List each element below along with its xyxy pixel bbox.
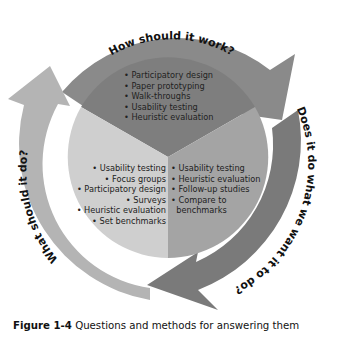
method-item: • Usability testing: [171, 163, 260, 174]
figure-label: Figure 1-4: [13, 320, 72, 331]
method-item: • Follow-up studies: [171, 184, 260, 195]
cycle-diagram: How should it work? Does it do what we w…: [0, 0, 345, 310]
method-item: • Heuristic evaluation: [171, 174, 260, 185]
method-item: • Focus groups: [76, 174, 166, 185]
figure-caption: Figure 1-4 Questions and methods for ans…: [13, 320, 299, 331]
method-item: • Usability testing: [124, 102, 213, 113]
method-item: • Usability testing: [76, 163, 166, 174]
method-item: • Participatory design: [124, 70, 213, 81]
figure-caption-text: Questions and methods for answering them: [72, 320, 299, 331]
method-item: • Surveys: [76, 195, 166, 206]
sector-top-methods: • Participatory design • Paper prototypi…: [124, 70, 213, 123]
method-item: benchmarks: [171, 205, 260, 216]
sector-right-methods: • Usability testing • Heuristic evaluati…: [171, 163, 260, 216]
method-item: • Heuristic evaluation: [76, 205, 166, 216]
method-item: • Paper prototyping: [124, 81, 213, 92]
sector-left-methods: • Usability testing • Focus groups • Par…: [76, 163, 166, 227]
method-item: • Walk-throughs: [124, 91, 213, 102]
method-item: • Compare to: [171, 195, 260, 206]
method-item: • Heuristic evaluation: [124, 112, 213, 123]
method-item: • Participatory design: [76, 184, 166, 195]
method-item: • Set benchmarks: [76, 216, 166, 227]
cycle-diagram-graphic: How should it work? Does it do what we w…: [0, 0, 345, 310]
